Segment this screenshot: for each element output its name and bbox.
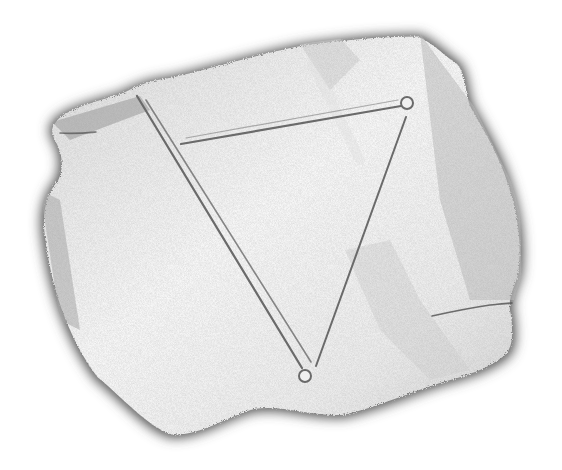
vertex-circle-bottom xyxy=(299,370,311,382)
torn-paper-illustration xyxy=(0,0,562,470)
paper-grain xyxy=(0,0,562,470)
vertex-circle-top-right xyxy=(401,97,413,109)
